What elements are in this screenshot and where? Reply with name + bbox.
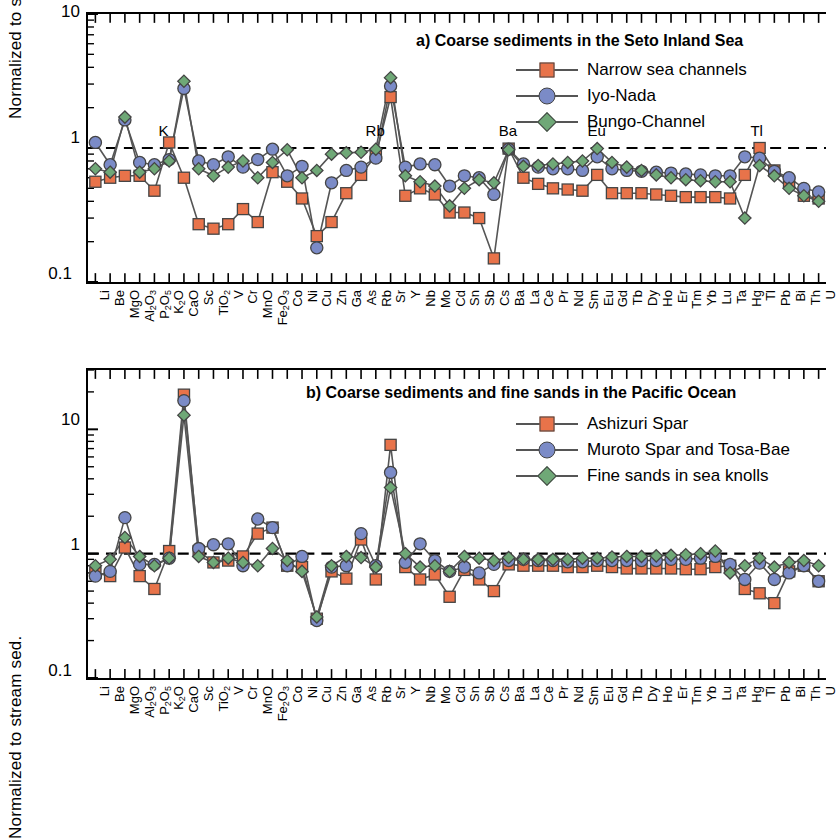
legend-label: Ashizuri Spar — [587, 414, 688, 434]
data-point — [724, 193, 735, 204]
data-point — [621, 188, 632, 199]
data-point — [458, 170, 470, 182]
x-axis-tick-label: Be — [113, 290, 126, 306]
x-axis-tick-label: Dy — [646, 290, 659, 306]
data-point — [89, 163, 101, 175]
data-point — [222, 538, 234, 550]
data-point — [754, 588, 765, 599]
y-axis-label-b: Normalized to stream sed. — [2, 815, 30, 835]
data-point — [266, 522, 278, 534]
data-point — [325, 177, 337, 189]
data-point — [680, 192, 691, 203]
legend-item-narrow-sea-channels[interactable]: Narrow sea channels — [516, 58, 747, 82]
x-axis-tick-label: Sr — [394, 686, 407, 699]
x-axis-tick-label: Eu — [602, 290, 615, 306]
data-point — [577, 185, 588, 196]
x-axis-tick-label: Th — [809, 290, 822, 305]
data-point — [592, 169, 603, 180]
x-axis-tick-label: Li — [98, 290, 111, 300]
x-axis-tick-label: V — [232, 290, 245, 299]
data-point — [474, 213, 485, 224]
data-point — [370, 574, 381, 585]
annotation-label-tl: Tl — [750, 122, 763, 139]
data-point — [355, 161, 367, 173]
x-axis-tick-label: Ga — [350, 290, 363, 307]
data-point — [326, 217, 337, 228]
legend-line — [516, 69, 578, 71]
x-axis-tick-label: CaO — [187, 290, 200, 317]
x-axis-tick-label: Cr — [246, 686, 259, 700]
data-point — [414, 538, 426, 550]
legend-item-bungo-channel[interactable]: Bungo-Channel — [516, 110, 747, 134]
x-axis-tick-label: Sr — [394, 290, 407, 303]
legend-item-muroto-spar-and-tosa-bae[interactable]: Muroto Spar and Tosa-Bae — [516, 438, 790, 462]
data-point — [119, 170, 130, 181]
data-point — [414, 158, 426, 170]
y-axis-label-a-text: Normalized to stream sed. — [6, 91, 26, 119]
data-point — [384, 466, 396, 478]
data-point — [488, 586, 499, 597]
legend-line — [516, 121, 578, 123]
x-axis-tick-label: Cs — [498, 290, 511, 306]
data-point — [252, 528, 263, 539]
data-point — [311, 231, 322, 242]
y-tick-label-01-b: 0.1 — [22, 661, 72, 681]
annotation-label-ba: Ba — [499, 122, 517, 139]
legend-item-fine-sands-in-sea-knolls[interactable]: Fine sands in sea knolls — [516, 464, 790, 488]
x-axis-tick-label: U — [824, 686, 837, 695]
data-point — [222, 161, 234, 173]
x-axis-tick-label: La — [528, 290, 541, 304]
x-axis-tick-label: Th — [809, 686, 822, 701]
x-axis-tick-label: Mo — [439, 686, 452, 704]
legend-item-iyo-nada[interactable]: Iyo-Nada — [516, 84, 747, 108]
data-point — [739, 573, 751, 585]
x-axis-tick-label: Ga — [350, 686, 363, 703]
x-axis-tick-label: Zn — [335, 686, 348, 701]
data-point — [385, 92, 396, 103]
x-axis-labels-a: LiBeMgOAl2O3P2O5K2OCaOScTiO2VCrMnOFe2O3C… — [86, 286, 826, 348]
data-point — [768, 573, 780, 585]
x-axis-tick-label: Ta — [735, 290, 748, 304]
x-axis-tick-label: K2O — [172, 290, 185, 314]
x-axis-tick-label: K2O — [172, 686, 185, 710]
data-point — [415, 574, 426, 585]
x-axis-tick-label: Er — [676, 686, 689, 699]
data-point — [739, 151, 751, 163]
data-point — [266, 143, 278, 155]
data-point — [400, 190, 411, 201]
legend-a: Narrow sea channels Iyo-Nada Bungo-Chann… — [516, 58, 747, 136]
x-axis-tick-label: Rb — [380, 290, 393, 307]
x-axis-tick-label: Ni — [306, 290, 319, 302]
legend-b: Ashizuri Spar Muroto Spar and Tosa-Bae F… — [516, 412, 790, 490]
x-axis-tick-label: MgO — [128, 686, 141, 714]
data-point — [518, 172, 529, 183]
data-point — [739, 169, 750, 180]
legend-item-ashizuri-spar[interactable]: Ashizuri Spar — [516, 412, 790, 436]
data-point — [533, 178, 544, 189]
x-axis-tick-label: Rb — [380, 686, 393, 703]
data-point — [134, 571, 145, 582]
data-point — [104, 565, 116, 577]
x-axis-tick-label: MnO — [261, 686, 274, 714]
data-point — [178, 172, 189, 183]
legend-line — [516, 475, 578, 477]
data-point — [651, 189, 662, 200]
data-point — [311, 242, 323, 254]
data-point — [769, 598, 780, 609]
x-axis-tick-label: Cd — [454, 686, 467, 703]
x-axis-tick-label: TiO2 — [217, 686, 230, 711]
x-axis-tick-label: Bi — [794, 290, 807, 302]
data-point — [355, 528, 367, 540]
x-axis-tick-label: V — [232, 686, 245, 695]
x-axis-tick-label: Co — [291, 686, 304, 703]
x-axis-tick-label: Bi — [794, 686, 807, 698]
data-point — [296, 160, 308, 172]
x-axis-tick-label: Dy — [646, 686, 659, 702]
data-point — [813, 575, 825, 587]
panel-title-b: b) Coarse sediments and fine sands in th… — [306, 384, 736, 402]
x-axis-tick-label: Ba — [513, 290, 526, 306]
x-axis-tick-label: Sn — [468, 290, 481, 306]
data-point — [606, 188, 617, 199]
x-axis-tick-label: Fe2O3 — [276, 686, 289, 721]
